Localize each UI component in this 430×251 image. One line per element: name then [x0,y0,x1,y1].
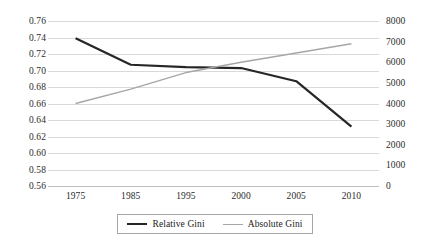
y-axis-left-tick-label: 0.66 [2,99,46,109]
legend-label: Relative Gini [152,219,204,230]
x-axis-tick-label: 2005 [271,191,321,202]
y-axis-left-tick-label: 0.60 [2,148,46,158]
line-chart-figure: 0.760.740.720.700.680.660.640.620.600.58… [0,0,430,251]
legend-label: Absolute Gini [248,219,303,230]
y-axis-left-tick-label: 0.68 [2,82,46,92]
y-axis-left-tick-label: 0.62 [2,132,46,142]
y-axis-left-tick-label: 0.72 [2,49,46,59]
x-axis-tick-label: 1985 [106,191,156,202]
x-axis-tick-label: 2010 [326,191,376,202]
y-axis-right-tick-label: 0 [386,181,430,191]
plot-area [48,21,379,186]
y-axis-right-tick-label: 1000 [386,160,430,170]
chart-legend: Relative GiniAbsolute Gini [117,214,313,234]
y-axis-right-tick-label: 6000 [386,57,430,67]
y-axis-right-tick-label: 7000 [386,37,430,47]
x-axis-tick-label: 2000 [216,191,266,202]
gridline [48,186,379,187]
legend-entry: Absolute Gini [223,219,303,230]
y-axis-right-tick-label: 2000 [386,140,430,150]
y-axis-left-tick-label: 0.74 [2,33,46,43]
x-axis-tick-label: 1975 [51,191,101,202]
y-axis-right-tick-label: 5000 [386,78,430,88]
y-axis-left-tick-label: 0.76 [2,16,46,26]
x-axis-tick-label: 1995 [161,191,211,202]
y-axis-left-tick-label: 0.56 [2,181,46,191]
y-axis-right-tick-label: 3000 [386,119,430,129]
series-line-relative-gini [76,38,352,126]
series-line-absolute-gini [76,44,352,104]
y-axis-left-tick-label: 0.58 [2,165,46,175]
series-layer [48,21,379,186]
legend-line-swatch-icon [127,223,147,225]
legend-entry: Relative Gini [127,219,204,230]
y-axis-left-tick-label: 0.64 [2,115,46,125]
y-axis-right-tick-label: 4000 [386,99,430,109]
legend-line-swatch-icon [223,224,243,225]
y-axis-left-tick-label: 0.70 [2,66,46,76]
y-axis-right-tick-label: 8000 [386,16,430,26]
